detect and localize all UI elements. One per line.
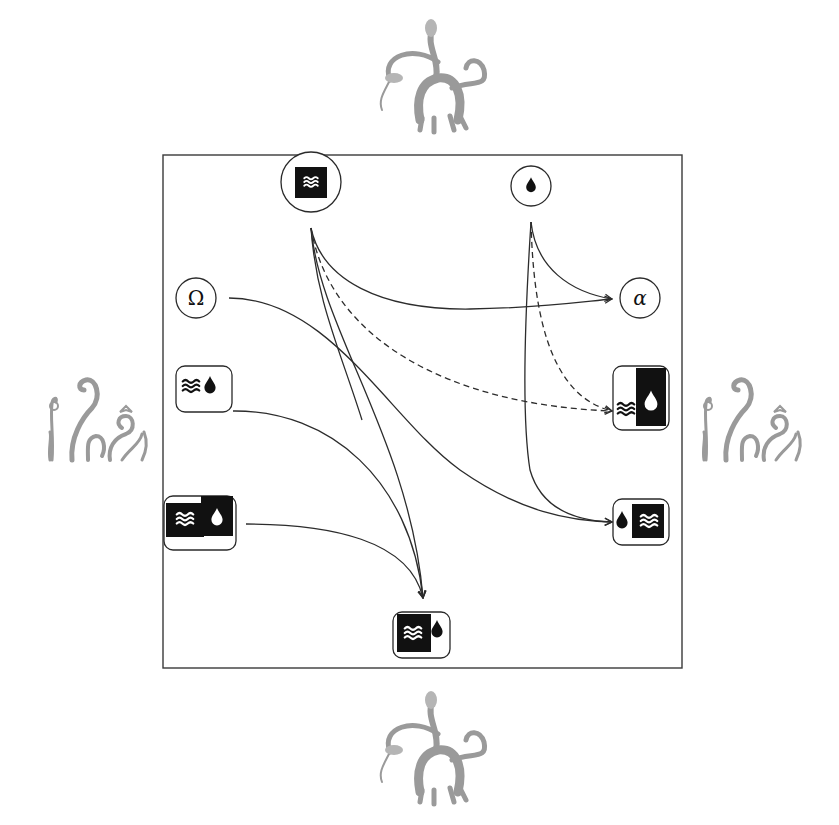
- edge-omega-to-drop-waves-right: [229, 298, 612, 522]
- edge-dark-box-left-to-bottom: [246, 524, 423, 598]
- diagram-canvas: Ω α: [0, 0, 839, 825]
- node-alpha[interactable]: α: [620, 278, 660, 318]
- edge-drop-to-waves-drop-right: [531, 222, 612, 411]
- edge-waves-drop-left-to-bottom: [233, 411, 423, 598]
- left-tentacles-decoration: [49, 380, 146, 460]
- edge-drop-to-alpha: [531, 222, 612, 299]
- bottom-creature-decoration: [381, 691, 485, 804]
- node-waves-drop-dark-left[interactable]: [164, 496, 236, 550]
- edge-drop-to-drop-waves-right: [525, 222, 612, 522]
- node-top-waves[interactable]: [281, 152, 341, 212]
- node-drop-waves-right[interactable]: [613, 499, 669, 545]
- right-tentacles-decoration: [703, 380, 800, 460]
- omega-label: Ω: [188, 286, 205, 310]
- node-waves-drop-bottom[interactable]: [393, 612, 450, 658]
- top-creature-decoration: [381, 19, 485, 132]
- node-waves-drop-right[interactable]: [613, 366, 669, 430]
- alpha-label: α: [633, 286, 647, 310]
- node-top-drop[interactable]: [511, 166, 551, 206]
- node-omega[interactable]: Ω: [176, 278, 216, 318]
- edges: [229, 222, 612, 598]
- edge-waves-to-waves-drop-right: [311, 228, 612, 411]
- node-waves-drop-left[interactable]: [176, 366, 232, 412]
- edge-waves-to-alpha: [311, 228, 612, 309]
- edge-waves-to-bottom-a: [311, 228, 423, 598]
